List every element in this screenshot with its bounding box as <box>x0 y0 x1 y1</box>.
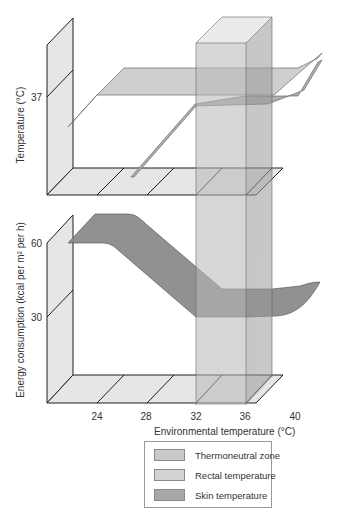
legend-item-skin: Skin temperature <box>154 488 267 502</box>
xtick-32: 32 <box>190 411 202 422</box>
legend-label: Rectal temperature <box>195 470 276 481</box>
xtick-40: 40 <box>289 411 301 422</box>
legend-item-rectal: Rectal temperature <box>154 468 276 482</box>
xlabel: Environmental temperature (°C) <box>154 426 295 437</box>
figure-canvas: Temperature (°C) 37 Energy consumption (… <box>0 0 337 440</box>
rectal-temperature-band <box>68 53 322 127</box>
upper-wall <box>47 18 73 195</box>
legend-label: Skin temperature <box>195 490 267 501</box>
xtick-36: 36 <box>239 411 251 422</box>
lower-ylabel-text: Energy consumption (kcal per m² per h) <box>15 222 26 398</box>
legend-swatch-skin <box>154 489 185 501</box>
xtick-24: 24 <box>91 411 103 422</box>
xtick-28: 28 <box>140 411 152 422</box>
energy-consumption-band <box>68 214 320 317</box>
upper-ylabel: Temperature (°C) <box>15 87 26 164</box>
upper-ytick-37: 37 <box>31 92 43 103</box>
legend-swatch-rectal <box>154 469 185 481</box>
legend-label: Thermoneutral zone <box>195 450 280 461</box>
lower-ylabel: Energy consumption (kcal per m² per h) <box>15 222 26 398</box>
upper-chart <box>47 18 322 195</box>
legend-swatch-thermoneutral <box>154 449 185 461</box>
lower-ytick-30: 30 <box>31 312 43 323</box>
legend-item-thermoneutral: Thermoneutral zone <box>154 448 280 462</box>
legend: Thermoneutral zone Rectal temperature Sk… <box>144 441 272 508</box>
lower-chart <box>47 214 320 403</box>
lower-ytick-60: 60 <box>31 238 43 249</box>
thermoneutral-zone-column <box>196 17 272 405</box>
